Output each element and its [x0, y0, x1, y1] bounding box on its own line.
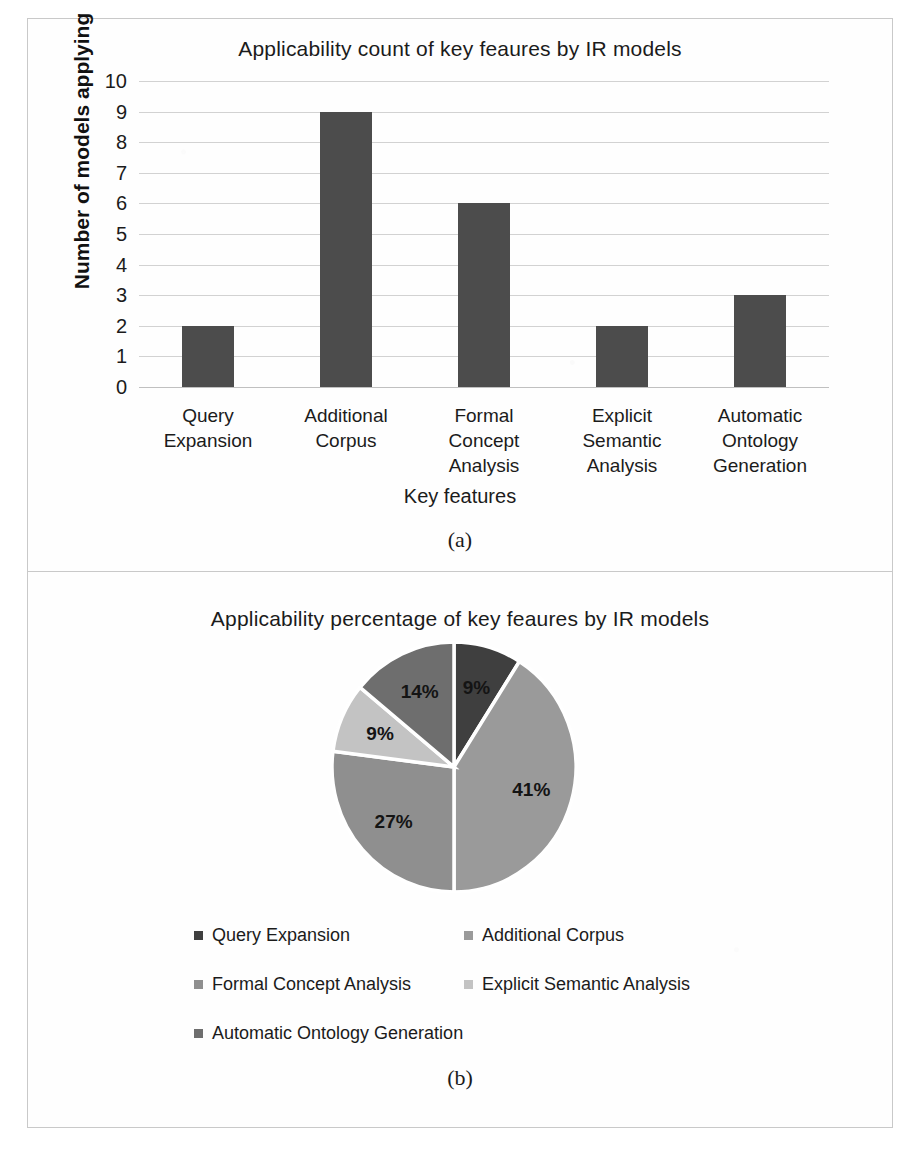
pie-slice-value-label: 14% [401, 681, 439, 703]
y-axis-tick-label: 1 [116, 345, 127, 368]
y-axis-tick-label: 8 [116, 131, 127, 154]
y-axis-tick-label: 10 [105, 70, 127, 93]
legend-item-label: Explicit Semantic Analysis [482, 974, 690, 995]
y-axis-tick-label: 5 [116, 223, 127, 246]
legend-row: Formal Concept AnalysisExplicit Semantic… [194, 974, 734, 995]
legend-item-label: Additional Corpus [482, 925, 624, 946]
x-axis-tick-line: Concept [409, 428, 559, 453]
bar [320, 112, 372, 387]
pie-chart-panel: Applicability percentage of key feaures … [28, 573, 892, 1127]
x-axis-tick-line: Query [133, 403, 283, 428]
x-axis-tick-line: Analysis [409, 453, 559, 478]
x-axis-tick-label: AutomaticOntologyGeneration [685, 403, 835, 478]
legend-swatch-icon [194, 931, 203, 940]
y-axis-tick-label: 9 [116, 100, 127, 123]
pie-chart-graphic: 9%41%27%9%14% [330, 641, 578, 893]
gridline [139, 142, 829, 143]
bar-chart-panel: Applicability count of key feaures by IR… [28, 19, 892, 571]
x-axis-tick-line: Generation [685, 453, 835, 478]
gridline [139, 387, 829, 388]
gridline [139, 173, 829, 174]
pie-chart-title: Applicability percentage of key feaures … [28, 607, 892, 631]
gridline [139, 81, 829, 82]
bar [734, 295, 786, 387]
x-axis-tick-line: Ontology [685, 428, 835, 453]
panel-a-label: (a) [28, 527, 892, 553]
x-axis-tick-line: Explicit [547, 403, 697, 428]
x-axis-tick-line: Analysis [547, 453, 697, 478]
legend-item: Explicit Semantic Analysis [464, 974, 734, 995]
bar [596, 326, 648, 387]
bar [458, 203, 510, 387]
pie-slice-value-label: 9% [463, 677, 490, 699]
x-axis-tick-line: Formal [409, 403, 559, 428]
y-axis-tick-label: 3 [116, 284, 127, 307]
pie-slices [330, 641, 578, 893]
legend-item: Formal Concept Analysis [194, 974, 464, 995]
legend-item-label: Formal Concept Analysis [212, 974, 411, 995]
x-axis-tick-label: ExplicitSemanticAnalysis [547, 403, 697, 478]
y-axis-tick-label: 7 [116, 161, 127, 184]
bar [182, 326, 234, 387]
x-axis-tick-line: Automatic [685, 403, 835, 428]
x-axis-tick-line: Corpus [271, 428, 421, 453]
y-axis-tick-label: 2 [116, 314, 127, 337]
x-axis-tick-line: Additional [271, 403, 421, 428]
bar-chart-title: Applicability count of key feaures by IR… [28, 37, 892, 61]
bar-chart-plot-area: 109876543210QueryExpansionAdditionalCorp… [139, 81, 829, 387]
legend-item: Additional Corpus [464, 925, 734, 946]
legend-swatch-icon [194, 1029, 203, 1038]
x-axis-tick-line: Expansion [133, 428, 283, 453]
legend-item-label: Query Expansion [212, 925, 350, 946]
y-axis-tick-label: 6 [116, 192, 127, 215]
x-axis-tick-label: QueryExpansion [133, 403, 283, 453]
bar-chart-y-axis-title: Number of models applying [70, 1, 94, 301]
legend-swatch-icon [464, 931, 473, 940]
y-axis-tick-label: 0 [116, 376, 127, 399]
legend-swatch-icon [464, 980, 473, 989]
gridline [139, 112, 829, 113]
panel-b-label: (b) [28, 1065, 892, 1091]
legend-row: Automatic Ontology Generation [194, 1023, 734, 1044]
pie-chart-legend: Query ExpansionAdditional CorpusFormal C… [194, 925, 734, 1072]
legend-item: Query Expansion [194, 925, 464, 946]
pie-slice-value-label: 41% [512, 779, 550, 801]
bar-chart-x-axis-title: Key features [28, 485, 892, 508]
legend-item-label: Automatic Ontology Generation [212, 1023, 463, 1044]
x-axis-tick-label: AdditionalCorpus [271, 403, 421, 453]
panel-divider [28, 571, 892, 572]
y-axis-tick-label: 4 [116, 253, 127, 276]
x-axis-tick-label: FormalConceptAnalysis [409, 403, 559, 478]
x-axis-tick-line: Semantic [547, 428, 697, 453]
legend-row: Query ExpansionAdditional Corpus [194, 925, 734, 946]
pie-slice-value-label: 27% [375, 811, 413, 833]
legend-swatch-icon [194, 980, 203, 989]
pie-slice-value-label: 9% [366, 723, 393, 745]
legend-item: Automatic Ontology Generation [194, 1023, 464, 1044]
